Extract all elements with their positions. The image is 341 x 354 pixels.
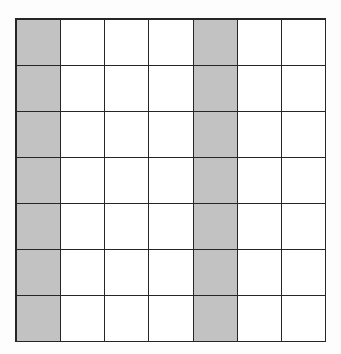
grid-cell-unshaded[interactable]: [281, 250, 325, 296]
grid-cell-shaded[interactable]: [193, 250, 237, 296]
grid-cell-unshaded[interactable]: [149, 20, 193, 66]
grid-cell-shaded[interactable]: [17, 20, 61, 66]
grid-cell-unshaded[interactable]: [237, 296, 281, 342]
grid-cell-shaded[interactable]: [193, 66, 237, 112]
grid-cell-unshaded[interactable]: [237, 66, 281, 112]
grid-cell-shaded[interactable]: [193, 20, 237, 66]
grid-cell-unshaded[interactable]: [281, 158, 325, 204]
grid-cell-unshaded[interactable]: [281, 204, 325, 250]
grid-row: [17, 296, 326, 342]
grid-cell-unshaded[interactable]: [105, 66, 149, 112]
grid-cell-unshaded[interactable]: [237, 204, 281, 250]
grid-cell-unshaded[interactable]: [149, 158, 193, 204]
grid-row: [17, 204, 326, 250]
grid-row: [17, 112, 326, 158]
grid-cell-unshaded[interactable]: [237, 158, 281, 204]
grid-cell-shaded[interactable]: [193, 158, 237, 204]
grid-cell-unshaded[interactable]: [105, 204, 149, 250]
grid-cell-unshaded[interactable]: [61, 296, 105, 342]
grid-cell-unshaded[interactable]: [105, 158, 149, 204]
grid-table: [16, 19, 326, 342]
grid-cell-unshaded[interactable]: [61, 20, 105, 66]
grid-cell-unshaded[interactable]: [61, 66, 105, 112]
grid-cell-shaded[interactable]: [193, 296, 237, 342]
grid-cell-shaded[interactable]: [17, 158, 61, 204]
grid-cell-unshaded[interactable]: [61, 158, 105, 204]
grid-row: [17, 158, 326, 204]
grid-cell-unshaded[interactable]: [105, 112, 149, 158]
grid-cell-unshaded[interactable]: [237, 112, 281, 158]
grid-cell-unshaded[interactable]: [149, 112, 193, 158]
grid-cell-unshaded[interactable]: [281, 66, 325, 112]
grid-cell-unshaded[interactable]: [237, 250, 281, 296]
grid-cell-unshaded[interactable]: [105, 250, 149, 296]
grid-cell-unshaded[interactable]: [237, 20, 281, 66]
grid-body: [17, 20, 326, 342]
grid-cell-shaded[interactable]: [17, 112, 61, 158]
grid-cell-unshaded[interactable]: [281, 20, 325, 66]
grid-cell-unshaded[interactable]: [149, 66, 193, 112]
grid-cell-unshaded[interactable]: [61, 112, 105, 158]
grid-cell-shaded[interactable]: [193, 204, 237, 250]
grid-cell-shaded[interactable]: [17, 250, 61, 296]
grid-cell-unshaded[interactable]: [105, 296, 149, 342]
grid-cell-shaded[interactable]: [17, 296, 61, 342]
grid-cell-unshaded[interactable]: [61, 204, 105, 250]
grid-figure: [16, 19, 325, 341]
grid-cell-unshaded[interactable]: [61, 250, 105, 296]
grid-row: [17, 20, 326, 66]
grid-row: [17, 66, 326, 112]
grid-cell-unshaded[interactable]: [281, 296, 325, 342]
grid-row: [17, 250, 326, 296]
grid-cell-unshaded[interactable]: [149, 296, 193, 342]
grid-cell-unshaded[interactable]: [149, 250, 193, 296]
grid-cell-unshaded[interactable]: [149, 204, 193, 250]
grid-cell-shaded[interactable]: [193, 112, 237, 158]
grid-cell-unshaded[interactable]: [105, 20, 149, 66]
grid-cell-shaded[interactable]: [17, 66, 61, 112]
grid-cell-unshaded[interactable]: [281, 112, 325, 158]
grid-cell-shaded[interactable]: [17, 204, 61, 250]
